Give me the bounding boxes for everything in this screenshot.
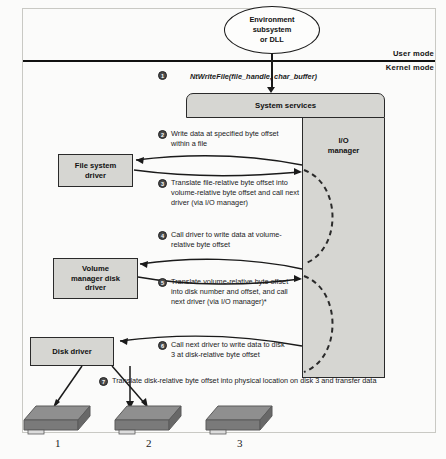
file-system-driver-line1: File system bbox=[75, 161, 116, 171]
disk-driver-label: Disk driver bbox=[52, 347, 91, 357]
step-6-marker: 6 bbox=[158, 341, 167, 350]
step-5-text: Translate volume-relative byte offset in… bbox=[171, 277, 300, 306]
volume-manager-driver-line3: driver bbox=[71, 283, 120, 293]
environment-subsystem-node: Environment subsystem or DLL bbox=[224, 6, 320, 54]
step-2-text: Write data at specified byte offset with… bbox=[171, 129, 298, 149]
disk-3-graphic bbox=[204, 403, 274, 437]
step-6-text: Call next driver to write data to disk 3… bbox=[171, 340, 286, 360]
file-system-driver-node: File system driver bbox=[58, 154, 133, 187]
environment-subsystem-line3: or DLL bbox=[249, 35, 294, 45]
user-kernel-mode-divider bbox=[23, 60, 435, 62]
step-6: 6 Call next driver to write data to disk… bbox=[158, 340, 286, 360]
disk-2-graphic bbox=[113, 403, 183, 437]
step-3-marker: 3 bbox=[158, 179, 167, 188]
step-3-text: Translate file-relative byte offset into… bbox=[171, 178, 304, 207]
step-4-text: Call driver to write data at volume-rela… bbox=[171, 230, 302, 250]
step-4: 4 Call driver to write data at volume-re… bbox=[158, 230, 302, 250]
step-2-marker: 2 bbox=[158, 130, 167, 139]
disk-1-graphic bbox=[22, 403, 92, 437]
disk-2-label: 2 bbox=[146, 437, 152, 449]
volume-manager-driver-line1: Volume bbox=[71, 264, 120, 274]
step-5-marker: 5 bbox=[158, 278, 167, 287]
disk-1-label: 1 bbox=[55, 437, 61, 449]
environment-subsystem-line2: subsystem bbox=[249, 25, 294, 35]
user-mode-label: User mode bbox=[393, 49, 434, 58]
step-4-marker: 4 bbox=[158, 231, 167, 240]
system-services-node: System services bbox=[186, 93, 385, 118]
disk-3-label: 3 bbox=[237, 437, 243, 449]
step-1: 1 bbox=[158, 71, 167, 80]
step-1-marker: 1 bbox=[158, 71, 167, 80]
system-services-label: System services bbox=[255, 101, 316, 110]
step-2: 2 Write data at specified byte offset wi… bbox=[158, 129, 298, 149]
environment-subsystem-line1: Environment bbox=[249, 15, 294, 25]
step-3: 3 Translate file-relative byte offset in… bbox=[158, 178, 304, 207]
kernel-mode-label: Kernel mode bbox=[386, 63, 434, 72]
step-5: 5 Translate volume-relative byte offset … bbox=[158, 277, 300, 306]
file-system-driver-line2: driver bbox=[75, 171, 116, 181]
ntwritefile-call-label: NtWriteFile(file_handle, char_buffer) bbox=[190, 72, 317, 81]
volume-manager-disk-driver-node: Volume manager disk driver bbox=[53, 258, 138, 299]
volume-manager-driver-line2: manager disk bbox=[71, 274, 120, 284]
